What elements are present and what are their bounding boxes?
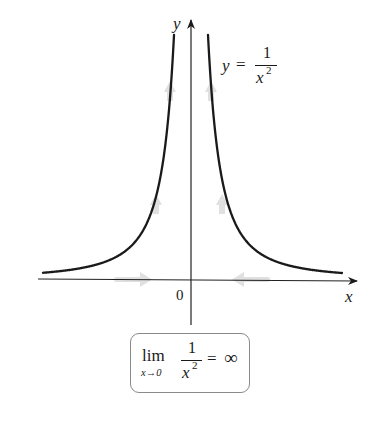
function-label: y = 1 x 2: [222, 44, 292, 94]
function-label-lhs: y: [222, 56, 230, 76]
limit-statement-box: lim x→0 1 x 2 = ∞: [130, 333, 250, 393]
limit-lim: lim: [142, 346, 165, 366]
limit-exponent: 2: [192, 359, 198, 371]
curve-left-branch: [43, 35, 174, 273]
limit-subscript: x→0: [141, 367, 161, 378]
function-label-denominator: x: [256, 68, 264, 88]
limit-equals: =: [207, 349, 217, 369]
limit-denominator: x: [182, 363, 190, 383]
function-label-numerator: 1: [263, 44, 271, 62]
origin-label: 0: [176, 287, 184, 304]
function-label-eq: =: [236, 55, 246, 75]
function-label-exponent: 2: [266, 64, 272, 76]
x-axis-label: x: [345, 287, 353, 307]
limit-numerator: 1: [188, 339, 196, 357]
y-axis-label: y: [173, 14, 181, 34]
limit-result-infinity: ∞: [224, 347, 238, 369]
x-approach-arrow-right-icon: [232, 272, 270, 287]
limit-figure: y x 0 y = 1 x 2 lim x→0 1 x 2 = ∞: [0, 0, 378, 423]
x-axis: [38, 279, 357, 281]
